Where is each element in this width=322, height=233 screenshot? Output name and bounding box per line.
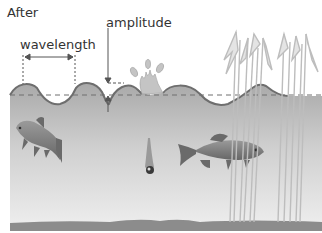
water-scene xyxy=(0,0,322,233)
diagram-canvas: After wavelength amplitude xyxy=(0,0,322,233)
wavelength-marker xyxy=(23,54,75,84)
amplitude-label: amplitude xyxy=(106,15,172,30)
wavelength-label: wavelength xyxy=(20,37,96,52)
lake-bed xyxy=(10,220,322,231)
diagram-title: After xyxy=(7,5,38,20)
